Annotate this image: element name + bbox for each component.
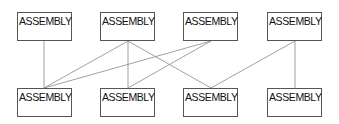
- node-label: ASSEMBLY: [185, 91, 238, 103]
- node-label: ASSEMBLY: [19, 91, 72, 103]
- edge-top3-bottom1: [44, 41, 211, 88]
- edge-top2-bottom1: [44, 41, 128, 88]
- node-top-4[interactable]: ASSEMBLY: [267, 12, 322, 41]
- node-label: ASSEMBLY: [102, 15, 155, 27]
- node-bottom-3[interactable]: ASSEMBLY: [183, 88, 238, 117]
- node-top-2[interactable]: ASSEMBLY: [100, 12, 155, 41]
- edge-top4-bottom3: [211, 41, 295, 88]
- node-bottom-2[interactable]: ASSEMBLY: [100, 88, 155, 117]
- node-top-3[interactable]: ASSEMBLY: [183, 12, 238, 41]
- node-label: ASSEMBLY: [269, 15, 322, 27]
- node-bottom-1[interactable]: ASSEMBLY: [17, 88, 72, 117]
- node-label: ASSEMBLY: [269, 91, 322, 103]
- node-label: ASSEMBLY: [185, 15, 238, 27]
- node-label: ASSEMBLY: [102, 91, 155, 103]
- node-label: ASSEMBLY: [19, 15, 72, 27]
- node-top-1[interactable]: ASSEMBLY: [17, 12, 72, 41]
- node-bottom-4[interactable]: ASSEMBLY: [267, 88, 322, 117]
